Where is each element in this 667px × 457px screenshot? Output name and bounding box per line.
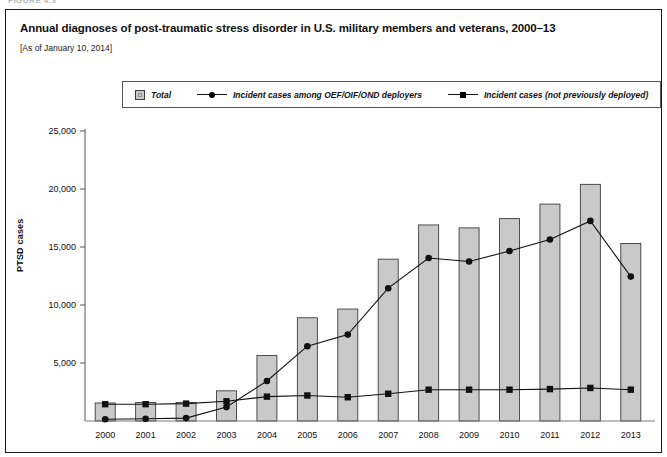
x-axis-tick-label: 2007 xyxy=(378,430,398,440)
marker-deployers-2006 xyxy=(344,331,351,338)
marker-not-deployed-2009 xyxy=(466,386,472,392)
x-axis-tick-label: 2004 xyxy=(257,430,277,440)
marker-not-deployed-2013 xyxy=(628,386,634,392)
marker-not-deployed-2004 xyxy=(264,393,270,399)
bar-total-2013 xyxy=(621,244,641,421)
x-axis-tick-label: 2000 xyxy=(95,430,115,440)
marker-deployers-2011 xyxy=(547,236,554,243)
marker-deployers-2000 xyxy=(102,416,109,423)
marker-not-deployed-2000 xyxy=(102,401,108,407)
chart-plot-area: 5,00010,00015,00020,00025,00020002001200… xyxy=(6,10,663,454)
marker-not-deployed-2011 xyxy=(547,386,553,392)
figure-container: Annual diagnoses of post-traumatic stres… xyxy=(5,9,662,453)
y-axis-tick-label: 25,000 xyxy=(48,126,76,136)
x-axis-tick-label: 2013 xyxy=(621,430,641,440)
marker-deployers-2009 xyxy=(466,258,473,265)
marker-not-deployed-2005 xyxy=(304,392,310,398)
marker-deployers-2008 xyxy=(425,255,432,262)
marker-not-deployed-2002 xyxy=(183,400,189,406)
marker-deployers-2010 xyxy=(506,248,513,255)
x-axis-tick-label: 2003 xyxy=(216,430,236,440)
x-axis-tick-label: 2006 xyxy=(338,430,358,440)
marker-not-deployed-2001 xyxy=(142,401,148,407)
marker-not-deployed-2007 xyxy=(385,391,391,397)
y-axis-tick-label: 20,000 xyxy=(48,184,76,194)
x-axis-tick-label: 2001 xyxy=(136,430,156,440)
marker-deployers-2001 xyxy=(142,415,149,422)
x-axis-tick-label: 2002 xyxy=(176,430,196,440)
bar-total-2005 xyxy=(297,318,317,421)
marker-not-deployed-2006 xyxy=(345,394,351,400)
marker-deployers-2007 xyxy=(385,285,392,292)
marker-deployers-2004 xyxy=(264,378,271,385)
marker-deployers-2012 xyxy=(587,218,594,225)
marker-deployers-2003 xyxy=(223,404,230,411)
ptsd-bar-line-chart: 5,00010,00015,00020,00025,00020002001200… xyxy=(6,10,663,454)
y-axis-tick-label: 15,000 xyxy=(48,242,76,252)
y-axis-tick-label: 10,000 xyxy=(48,300,76,310)
marker-deployers-2013 xyxy=(627,273,634,280)
marker-deployers-2002 xyxy=(183,415,190,422)
x-axis-tick-label: 2009 xyxy=(459,430,479,440)
x-axis-tick-label: 2005 xyxy=(297,430,317,440)
marker-deployers-2005 xyxy=(304,343,311,350)
marker-not-deployed-2010 xyxy=(506,386,512,392)
x-axis-tick-label: 2011 xyxy=(540,430,559,440)
x-axis-tick-label: 2008 xyxy=(419,430,439,440)
y-axis-tick-label: 5,000 xyxy=(53,358,76,368)
marker-not-deployed-2008 xyxy=(425,386,431,392)
marker-not-deployed-2012 xyxy=(587,385,593,391)
marker-not-deployed-2003 xyxy=(223,398,229,404)
figure-number-label: FIGURE 4.3 xyxy=(8,0,57,5)
x-axis-tick-label: 2010 xyxy=(499,430,519,440)
bar-total-2004 xyxy=(257,355,277,421)
x-axis-tick-label: 2012 xyxy=(580,430,600,440)
